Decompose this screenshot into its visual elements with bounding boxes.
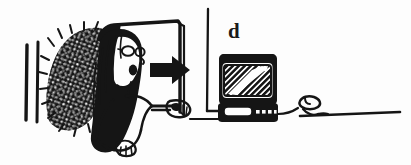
wall-corner-line	[207, 9, 208, 111]
illustration-canvas: d	[0, 0, 411, 165]
monitor-screen	[224, 65, 271, 96]
panel-label: d	[228, 19, 240, 43]
illustration-panel: d	[0, 0, 411, 165]
